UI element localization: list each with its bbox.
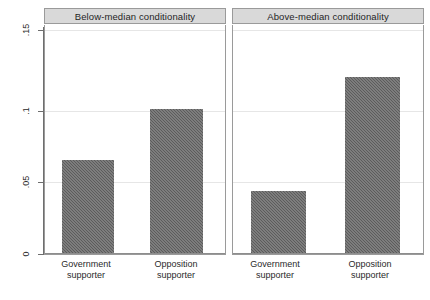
bar-government-supporter[interactable]	[62, 160, 114, 253]
x-label-government-right: Government supporter	[225, 259, 325, 281]
y-tick-mark-0	[38, 254, 43, 255]
gridline-015-right	[233, 30, 423, 31]
y-tick-label-1: .05	[21, 169, 33, 195]
plot-baseline	[45, 253, 225, 254]
y-tick-mark-3	[38, 30, 43, 31]
x-label-government-left-line2: supporter	[36, 270, 136, 281]
x-label-opposition-left: Opposition supporter	[126, 259, 226, 281]
x-label-government-right-line1: Government	[225, 259, 325, 270]
y-tick-mark-1	[38, 182, 43, 183]
panel-below-median: Below-median conditionality	[44, 8, 226, 255]
plot-area-above-median	[232, 25, 424, 255]
panel-above-median: Above-median conditionality	[232, 8, 424, 255]
y-tick-mark-2	[38, 111, 43, 112]
bar-opposition-supporter-right[interactable]	[345, 77, 400, 253]
y-tick-label-3: .15	[21, 17, 33, 43]
panel-title-below-median: Below-median conditionality	[44, 8, 226, 24]
x-label-opposition-left-line2: supporter	[126, 270, 226, 281]
gridline-015	[45, 30, 225, 31]
bar-government-supporter-right[interactable]	[251, 191, 306, 253]
x-label-opposition-right: Opposition supporter	[320, 259, 420, 281]
x-label-government-right-line2: supporter	[225, 270, 325, 281]
plot-baseline-right	[233, 253, 423, 254]
bar-opposition-supporter[interactable]	[150, 109, 203, 253]
x-label-opposition-right-line2: supporter	[320, 270, 420, 281]
plot-area-below-median	[44, 25, 226, 255]
x-label-government-left-line1: Government	[36, 259, 136, 270]
x-label-government-left: Government supporter	[36, 259, 136, 281]
chart-figure: Protest 0 .05 .1 .15 Below-median condit…	[0, 0, 430, 300]
y-tick-label-0: 0	[21, 241, 33, 267]
x-label-opposition-left-line1: Opposition	[126, 259, 226, 270]
y-tick-label-2: .1	[21, 98, 33, 124]
x-label-opposition-right-line1: Opposition	[320, 259, 420, 270]
panel-title-above-median: Above-median conditionality	[232, 8, 424, 24]
